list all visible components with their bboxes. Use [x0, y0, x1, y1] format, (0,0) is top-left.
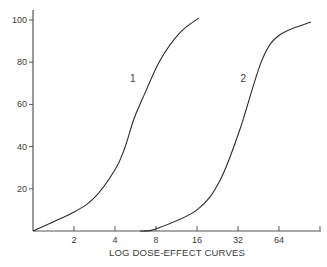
y-tick-label: 60 — [17, 99, 27, 109]
curves — [33, 18, 311, 231]
y-tick-label: 100 — [12, 15, 27, 25]
curve-1 — [33, 18, 199, 231]
y-tick-label: 40 — [17, 142, 27, 152]
curve-label-1: 1 — [130, 73, 136, 84]
x-tick-label: 16 — [192, 235, 202, 245]
y-tick-label: 20 — [17, 184, 27, 194]
curve-labels: 12 — [130, 73, 247, 84]
x-tick-label: 4 — [112, 235, 117, 245]
x-tick-label: 32 — [233, 235, 243, 245]
y-axis-ticks: 20406080100 — [12, 15, 33, 194]
y-tick-label: 80 — [17, 57, 27, 67]
axes — [33, 10, 321, 231]
curve-label-2: 2 — [241, 73, 247, 84]
x-tick-label: 64 — [274, 235, 284, 245]
x-axis-ticks: 248163264 — [71, 226, 320, 245]
x-tick-label: 8 — [153, 235, 158, 245]
dose-effect-chart: 20406080100 248163264 12 LOG DOSE-EFFECT… — [0, 0, 327, 267]
chart-title: LOG DOSE-EFFECT CURVES — [109, 247, 245, 258]
curve-2 — [140, 22, 311, 231]
x-tick-label: 2 — [71, 235, 76, 245]
